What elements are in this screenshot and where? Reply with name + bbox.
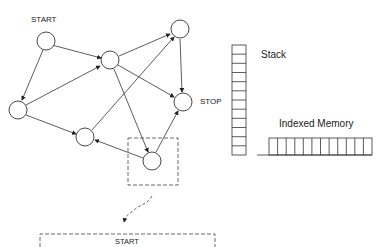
zoom-arrow — [124, 196, 152, 222]
start-label: START — [31, 15, 57, 24]
stack-label: Stack — [261, 49, 287, 60]
node-start — [37, 32, 55, 50]
node-4 — [9, 101, 27, 119]
node-7 — [143, 152, 161, 170]
nodes — [9, 20, 192, 170]
diagram-canvas: START STOP START Stack Indexed Memory — [0, 0, 391, 247]
stop-label: STOP — [200, 97, 222, 106]
indexed-memory-label: Indexed Memory — [279, 118, 353, 129]
node-3 — [171, 20, 189, 38]
node-stop — [174, 93, 192, 111]
node-6 — [76, 128, 94, 146]
zoom-start-label: START — [115, 237, 139, 246]
indexed-memory — [257, 138, 372, 155]
node-2 — [101, 51, 119, 69]
edges — [22, 34, 182, 158]
stack — [232, 45, 246, 155]
